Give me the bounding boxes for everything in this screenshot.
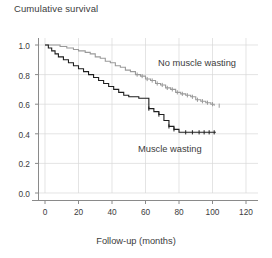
x-tick-label-20: 20 bbox=[66, 207, 92, 217]
y-tick-marks bbox=[35, 45, 39, 193]
censor-marks-muscle-wasting bbox=[149, 107, 214, 135]
kaplan-meier-figure: Cumulative survival bbox=[0, 0, 272, 258]
x-tick-label-60: 60 bbox=[133, 207, 159, 217]
curve-label-muscle-wasting: Muscle wasting bbox=[138, 144, 202, 154]
x-tick-label-0: 0 bbox=[32, 207, 58, 217]
x-tick-label-40: 40 bbox=[99, 207, 125, 217]
plot-area bbox=[0, 0, 272, 258]
x-tick-label-100: 100 bbox=[200, 207, 226, 217]
curve-label-no-muscle-wasting: No muscle wasting bbox=[158, 58, 236, 68]
y-tick-label-5: 1.0 bbox=[6, 41, 30, 51]
y-tick-label-2: 0.4 bbox=[6, 130, 30, 140]
y-tick-label-3: 0.6 bbox=[6, 100, 30, 110]
x-tick-label-120: 120 bbox=[233, 207, 259, 217]
y-tick-label-4: 0.8 bbox=[6, 71, 30, 81]
y-tick-label-1: 0.2 bbox=[6, 159, 30, 169]
x-tick-marks bbox=[45, 201, 246, 205]
figure-caption-cropped bbox=[6, 250, 268, 257]
x-axis-label: Follow-up (months) bbox=[0, 236, 272, 246]
y-tick-label-0: 0.0 bbox=[6, 189, 30, 199]
x-tick-label-80: 80 bbox=[166, 207, 192, 217]
